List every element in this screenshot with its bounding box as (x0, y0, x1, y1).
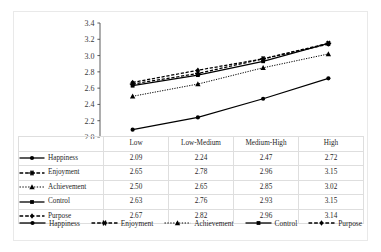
legend-line-swatch-square-icon (245, 218, 272, 228)
data-point (131, 128, 135, 132)
data-point (261, 97, 265, 101)
table-cell: 2.85 (234, 180, 299, 195)
legend-line-swatch-square-icon (19, 197, 45, 207)
table-cell: 2.93 (234, 195, 299, 210)
legend-item-purpose[interactable]: Purpose (308, 218, 362, 228)
table-row: Control2.632.762.933.15 (19, 195, 364, 210)
table-cell: 3.15 (299, 166, 364, 181)
y-axis-tick-label: 2.4 (85, 100, 95, 109)
line-chart-svg: 2.02.22.42.62.83.03.23.4 (14, 12, 367, 139)
series-happiness (131, 76, 331, 131)
chart-legend: HappinessEnjoymentAchievementControlPurp… (14, 218, 367, 228)
legend-line-swatch-triangle-icon (19, 182, 45, 192)
data-table: Low Low-Medium Medium-High High Happines… (18, 136, 364, 224)
data-point (130, 94, 135, 99)
table-cell: 2.09 (104, 151, 169, 166)
data-point (326, 76, 330, 80)
data-point (196, 115, 200, 119)
row-label-achievement: Achievement (19, 180, 104, 195)
table-cell: 2.76 (169, 195, 234, 210)
y-axis-tick-label: 3.2 (85, 35, 95, 44)
table-cell: 2.47 (234, 151, 299, 166)
table-row: Achievement2.502.652.853.02 (19, 180, 364, 195)
table-row: Happiness2.092.242.472.72 (19, 151, 364, 166)
y-axis-tick-label: 3.4 (85, 19, 95, 28)
legend-item-label: Purpose (338, 219, 362, 228)
row-label-text: Achievement (48, 181, 86, 195)
y-axis-tick-label: 2.6 (85, 84, 95, 93)
row-label-control: Control (19, 195, 104, 210)
table-cell: 2.65 (104, 166, 169, 181)
legend-item-achievement[interactable]: Achievement (164, 218, 233, 228)
series-achievement (130, 51, 331, 98)
table-cell: 2.72 (299, 151, 364, 166)
legend-item-label: Enjoyment (121, 219, 153, 228)
data-point (326, 51, 331, 56)
row-label-happiness: Happiness (19, 151, 104, 166)
column-header-medium-high: Medium-High (234, 137, 299, 152)
table-cell: 2.65 (169, 180, 234, 195)
legend-item-happiness[interactable]: Happiness (19, 218, 80, 228)
legend-line-swatch-triangle-icon (164, 218, 191, 228)
legend-item-enjoyment[interactable]: Enjoyment (91, 218, 153, 228)
chart-figure-frame: 2.02.22.42.62.83.03.23.4 Low Low-Medium … (13, 11, 368, 241)
table-cell: 2.96 (234, 166, 299, 181)
legend-line-swatch-diamond-icon (308, 218, 335, 228)
table-corner-cell (19, 137, 104, 152)
table-cell: 3.15 (299, 195, 364, 210)
legend-line-swatch-asterisk-icon (91, 218, 118, 228)
y-axis-tick-label: 3.0 (85, 52, 95, 61)
row-label-enjoyment: Enjoyment (19, 166, 104, 181)
legend-item-control[interactable]: Control (245, 218, 298, 228)
column-header-high: High (299, 137, 364, 152)
plot-area: 2.02.22.42.62.83.03.23.4 (14, 12, 367, 139)
column-header-low: Low (104, 137, 169, 152)
row-label-text: Control (48, 195, 70, 209)
table-header: Low Low-Medium Medium-High High (19, 137, 364, 152)
table-body: Happiness2.092.242.472.72Enjoyment2.652.… (19, 151, 364, 224)
y-axis-tick-label: 2.8 (85, 68, 95, 77)
y-axis-tick-label: 2.2 (85, 117, 95, 126)
table-cell: 2.50 (104, 180, 169, 195)
legend-line-swatch-asterisk-icon (19, 168, 45, 178)
legend-item-label: Happiness (49, 219, 80, 228)
series-purpose (130, 41, 330, 85)
row-label-text: Enjoyment (48, 166, 80, 180)
row-label-text: Happiness (48, 152, 78, 166)
legend-item-label: Achievement (194, 219, 233, 228)
table-cell: 2.24 (169, 151, 234, 166)
legend-line-swatch-circle-icon (19, 153, 45, 163)
table-header-row: Low Low-Medium Medium-High High (19, 137, 364, 152)
legend-item-label: Control (275, 219, 298, 228)
column-header-low-medium: Low-Medium (169, 137, 234, 152)
table-cell: 2.78 (169, 166, 234, 181)
table-row: Enjoyment2.652.782.963.15 (19, 166, 364, 181)
table-cell: 2.63 (104, 195, 169, 210)
series-enjoyment (130, 41, 331, 87)
table-cell: 3.02 (299, 180, 364, 195)
data-point (196, 73, 200, 77)
legend-line-swatch-circle-icon (19, 218, 46, 228)
